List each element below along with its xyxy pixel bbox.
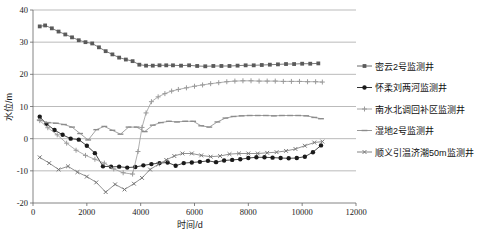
data-point-marker: [140, 176, 144, 180]
data-point-marker: [132, 182, 136, 186]
series-layer: [37, 24, 325, 194]
data-point-marker: [123, 188, 127, 192]
data-point-marker: [252, 63, 256, 67]
legend-item-2: 怀柔刘两河监测井: [357, 82, 447, 93]
series-1: [38, 24, 320, 69]
data-point-marker: [311, 150, 315, 154]
data-point-marker: [83, 153, 88, 158]
data-point-marker: [38, 25, 42, 29]
data-point-marker: [192, 84, 197, 89]
gridlines: [33, 10, 356, 171]
data-point-marker: [141, 163, 145, 167]
data-point-marker: [303, 154, 307, 158]
data-point-marker: [84, 40, 88, 44]
x-tick-label: 6000: [186, 207, 203, 217]
data-point-marker: [130, 172, 135, 177]
data-point-marker: [93, 151, 97, 155]
chart-figure: 020004000600080001000012000 -20-10010203…: [0, 0, 483, 234]
data-point-marker: [38, 155, 42, 159]
series-4: [37, 116, 324, 141]
data-point-marker: [77, 137, 81, 141]
data-point-marker: [319, 143, 323, 147]
x-tick-label: 12000: [345, 207, 366, 217]
data-point-marker: [187, 63, 191, 67]
data-point-marker: [287, 156, 291, 160]
data-point-marker: [289, 79, 294, 84]
legend-label: 顺义引温济潮50m监测井: [375, 147, 474, 158]
data-point-marker: [249, 78, 254, 83]
data-point-marker: [216, 80, 221, 85]
data-point-marker: [131, 59, 135, 63]
data-point-marker: [292, 62, 296, 66]
data-point-marker: [270, 155, 274, 159]
data-point-marker: [156, 94, 161, 99]
data-point-marker: [151, 64, 155, 68]
chart-canvas: 020004000600080001000012000 -20-10010203…: [0, 0, 483, 234]
data-point-marker: [63, 33, 67, 37]
data-point-marker: [257, 79, 262, 84]
data-point-marker: [135, 149, 140, 154]
data-point-marker: [308, 62, 312, 66]
x-axis-ticks: 020004000600080001000012000: [31, 203, 367, 217]
data-point-marker: [47, 161, 51, 165]
legend-item-1: 密云2号监测井: [357, 61, 434, 72]
data-point-marker: [85, 144, 89, 148]
y-axis-ticks: -20-10010203040: [17, 5, 33, 208]
data-point-marker: [203, 64, 207, 68]
y-axis-title: 水位/m: [3, 93, 14, 121]
data-point-marker: [254, 155, 258, 159]
data-point-marker: [169, 89, 174, 94]
data-point-marker: [273, 79, 278, 84]
x-tick-label: 8000: [240, 207, 257, 217]
data-point-marker: [172, 154, 176, 158]
y-tick-label: 20: [20, 69, 29, 79]
data-point-marker: [297, 79, 302, 84]
data-point-marker: [305, 79, 310, 84]
data-point-marker: [164, 63, 168, 67]
data-point-marker: [104, 190, 108, 194]
x-axis-title: 时间/d: [177, 219, 203, 230]
data-point-marker: [124, 58, 128, 62]
data-point-marker: [66, 164, 70, 168]
data-point-marker: [262, 155, 266, 159]
data-point-marker: [125, 165, 129, 169]
x-tick-label: 0: [31, 207, 35, 217]
data-point-marker: [104, 49, 108, 53]
data-point-marker: [268, 63, 272, 67]
y-tick-label: 0: [24, 134, 28, 144]
legend-item-3: 南水北调回补区监测井: [357, 104, 465, 115]
data-point-marker: [70, 35, 74, 39]
data-point-marker: [236, 64, 240, 68]
data-point-marker: [85, 175, 89, 179]
data-point-marker: [276, 62, 280, 66]
data-point-marker: [232, 79, 237, 84]
data-point-marker: [113, 182, 117, 186]
data-point-marker: [284, 62, 288, 66]
data-point-marker: [144, 110, 149, 115]
y-tick-label: 10: [20, 102, 29, 112]
data-point-marker: [198, 160, 202, 164]
data-point-marker: [137, 63, 141, 67]
series-3: [37, 78, 325, 176]
data-point-marker: [320, 80, 325, 85]
data-point-marker: [77, 38, 81, 42]
data-point-marker: [173, 163, 177, 167]
data-point-marker: [184, 85, 189, 90]
legend-label: 密云2号监测井: [375, 61, 434, 72]
data-point-marker: [50, 26, 54, 30]
data-point-marker: [362, 85, 366, 89]
data-point-marker: [195, 64, 199, 68]
data-point-marker: [278, 156, 282, 160]
series-5: [38, 140, 324, 194]
data-point-marker: [171, 63, 175, 67]
data-point-marker: [57, 30, 61, 34]
data-point-marker: [182, 161, 186, 165]
data-point-marker: [90, 42, 94, 46]
data-point-marker: [97, 45, 101, 49]
y-tick-label: -10: [17, 166, 28, 176]
y-tick-label: 40: [20, 5, 29, 15]
data-point-marker: [149, 162, 153, 166]
data-point-marker: [117, 56, 121, 60]
data-point-marker: [60, 133, 64, 137]
data-point-marker: [208, 81, 213, 86]
